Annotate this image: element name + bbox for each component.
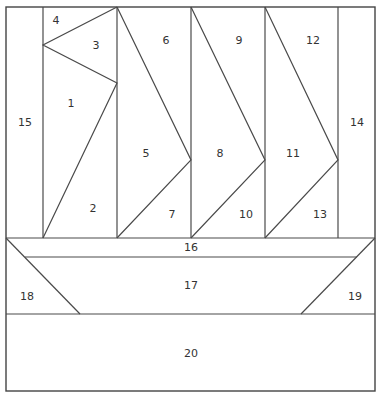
piece-label-4: 4: [53, 14, 60, 27]
piece-label-1: 1: [68, 97, 75, 110]
piece-label-3: 3: [93, 39, 100, 52]
piece-label-7: 7: [169, 208, 176, 221]
piece-label-9: 9: [236, 34, 243, 47]
piece-label-2: 2: [90, 202, 97, 215]
piece-label-17: 17: [184, 279, 198, 292]
piece-label-11: 11: [286, 147, 300, 160]
piece-label-20: 20: [184, 347, 198, 360]
piece-label-12: 12: [306, 34, 320, 47]
piece-label-16: 16: [184, 241, 198, 254]
sailboat-pattern-diagram: 1 2 3 4 5 6 7 8 9 10 11 12 13 14 15 16 1…: [0, 0, 381, 402]
piece-label-14: 14: [350, 116, 364, 129]
piece-label-19: 19: [348, 290, 362, 303]
piece-label-8: 8: [217, 147, 224, 160]
piece-label-6: 6: [163, 34, 170, 47]
piece-label-10: 10: [239, 208, 253, 221]
piece-label-18: 18: [20, 290, 34, 303]
piece-label-5: 5: [143, 147, 150, 160]
piece-label-13: 13: [313, 208, 327, 221]
piece-label-15: 15: [18, 116, 32, 129]
